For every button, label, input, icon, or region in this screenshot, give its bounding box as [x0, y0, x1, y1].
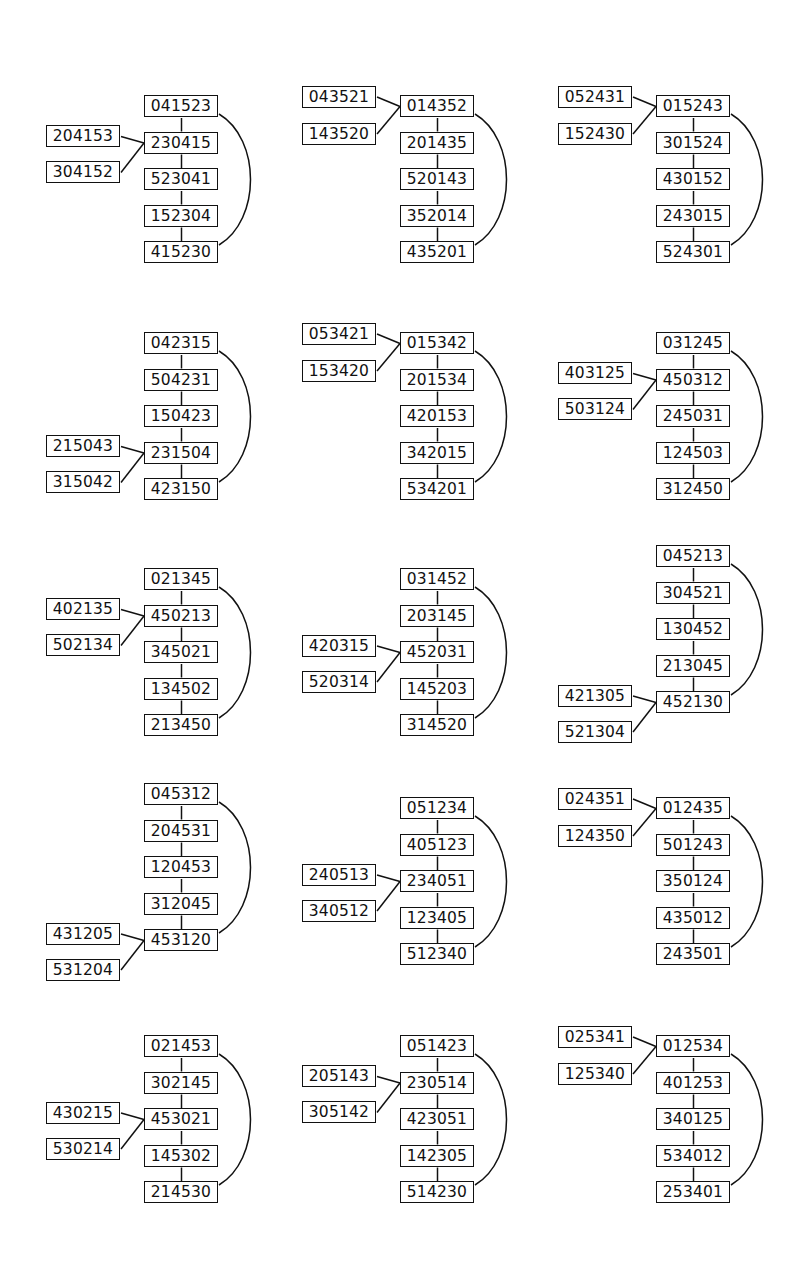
branch-edge: [633, 1037, 656, 1047]
branch-permutation-node: 025341: [558, 1026, 632, 1048]
permutation-node: 401253: [656, 1072, 730, 1094]
diagram-panel: 0125344012533401255340122534010253411253…: [0, 0, 250, 210]
permutation-node: 340125: [656, 1108, 730, 1130]
permutation-node: 253401: [656, 1181, 730, 1203]
wraparound-arc: [731, 1054, 763, 1185]
permutation-node: 534012: [656, 1145, 730, 1167]
permutation-node: 012534: [656, 1035, 730, 1057]
branch-permutation-node: 125340: [558, 1063, 632, 1085]
branch-edge: [633, 1047, 656, 1075]
